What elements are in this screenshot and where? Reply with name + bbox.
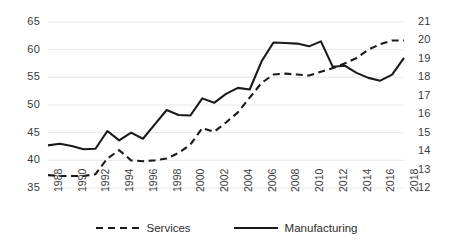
x-axis-tick-2006: 2006: [266, 169, 278, 192]
x-axis-tick-2002: 2002: [218, 169, 230, 192]
x-axis-tick-2010: 2010: [313, 169, 325, 192]
right-axis-tick-17: 17: [418, 89, 444, 101]
line-chart: 35404550556065 12131415161718192021 1988…: [0, 0, 452, 244]
x-axis-tick-1998: 1998: [171, 169, 183, 192]
left-axis-tick-65: 65: [14, 15, 40, 27]
right-axis-tick-18: 18: [418, 70, 444, 82]
x-axis-tick-2000: 2000: [194, 169, 206, 192]
legend-label-services: Services: [147, 222, 191, 234]
chart-canvas: [0, 0, 452, 244]
right-axis-tick-16: 16: [418, 107, 444, 119]
legend-swatch-dashed: [95, 223, 141, 233]
right-axis-tick-15: 15: [418, 126, 444, 138]
right-axis-tick-21: 21: [418, 15, 444, 27]
x-axis-tick-1990: 1990: [76, 169, 88, 192]
legend-label-manufacturing: Manufacturing: [285, 222, 358, 234]
left-axis-tick-35: 35: [14, 181, 40, 193]
x-axis-tick-2014: 2014: [361, 169, 373, 192]
left-axis-tick-50: 50: [14, 98, 40, 110]
gridline-group: [48, 22, 404, 188]
x-axis-tick-1994: 1994: [123, 169, 135, 192]
legend-item-manufacturing: Manufacturing: [233, 222, 358, 234]
x-axis-tick-1988: 1988: [52, 169, 64, 192]
right-axis-tick-19: 19: [418, 52, 444, 64]
right-axis-tick-12: 12: [418, 181, 444, 193]
x-axis-tick-2004: 2004: [242, 169, 254, 192]
x-axis-tick-2008: 2008: [289, 169, 301, 192]
x-axis-tick-2018: 2018: [408, 169, 420, 192]
left-axis-tick-45: 45: [14, 126, 40, 138]
series-line-services: [48, 40, 404, 176]
left-axis-tick-60: 60: [14, 43, 40, 55]
right-axis-tick-14: 14: [418, 144, 444, 156]
x-axis-tick-2016: 2016: [384, 169, 396, 192]
right-axis-tick-20: 20: [418, 33, 444, 45]
legend-swatch-solid: [233, 223, 279, 233]
series-group: [48, 40, 404, 176]
x-axis-tick-1992: 1992: [99, 169, 111, 192]
legend-item-services: Services: [95, 222, 191, 234]
left-axis-tick-40: 40: [14, 153, 40, 165]
right-axis-tick-13: 13: [418, 163, 444, 175]
chart-legend: Services Manufacturing: [0, 222, 452, 234]
left-axis-tick-55: 55: [14, 70, 40, 82]
x-axis-tick-2012: 2012: [337, 169, 349, 192]
x-axis-tick-1996: 1996: [147, 169, 159, 192]
